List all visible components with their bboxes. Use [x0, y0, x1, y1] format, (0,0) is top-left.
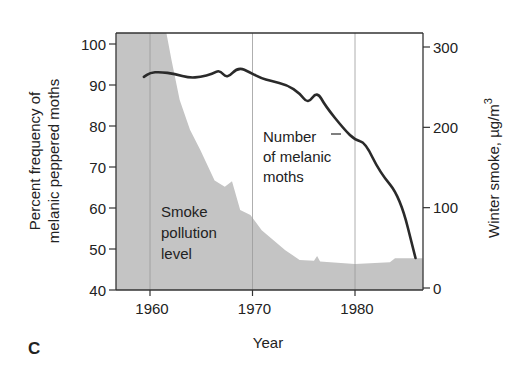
right-y-axis-title-text: Winter smoke, µg/m3 [482, 98, 502, 238]
annotation-melanic-line-1: Number [263, 128, 316, 145]
annotation-melanic-line-2: of melanic [263, 148, 332, 165]
y-right-tick-label-200: 200 [433, 119, 458, 136]
x-tick-label-1970: 1970 [238, 300, 271, 317]
left-y-axis-title-line-2: melanic peppered moths [45, 79, 62, 243]
left-y-axis-title-line-1: Percent frequency of [26, 91, 43, 230]
x-tick-label-1960: 1960 [135, 300, 168, 317]
y-left-tick-label-40: 40 [89, 282, 106, 299]
y-left-tick-label-70: 70 [89, 159, 106, 176]
y-right-tick-label-100: 100 [433, 199, 458, 216]
chart-figure: 196019701980 405060708090100 0100200300 … [0, 0, 525, 380]
annotation-melanic-line-3: moths [263, 168, 304, 185]
right-y-axis-title-superscript: 3 [482, 98, 494, 104]
right-y-axis: 0100200300 [423, 39, 458, 297]
y-right-tick-label-300: 300 [433, 39, 458, 56]
right-y-axis-title-main: Winter smoke, µg/m [485, 104, 502, 238]
x-axis: 196019701980 [135, 290, 373, 317]
panel-label: C [28, 339, 40, 358]
y-right-tick-label-0: 0 [433, 280, 441, 297]
y-left-tick-label-80: 80 [89, 118, 106, 135]
x-tick-label-1980: 1980 [340, 300, 373, 317]
annotation-melanic-moths: Number of melanic moths [263, 128, 341, 185]
annotation-smoke-line-1: Smoke [161, 203, 208, 220]
left-y-axis: 405060708090100 [81, 36, 116, 299]
y-left-tick-label-50: 50 [89, 241, 106, 258]
annotation-smoke-line-2: pollution [161, 224, 217, 241]
annotation-smoke-line-3: level [161, 245, 192, 262]
y-left-tick-label-100: 100 [81, 36, 106, 53]
left-y-axis-title: Percent frequency of melanic peppered mo… [26, 79, 62, 243]
y-left-tick-label-60: 60 [89, 200, 106, 217]
right-y-axis-title: Winter smoke, µg/m3 [482, 98, 502, 238]
x-axis-title: Year [253, 334, 283, 351]
y-left-tick-label-90: 90 [89, 77, 106, 94]
